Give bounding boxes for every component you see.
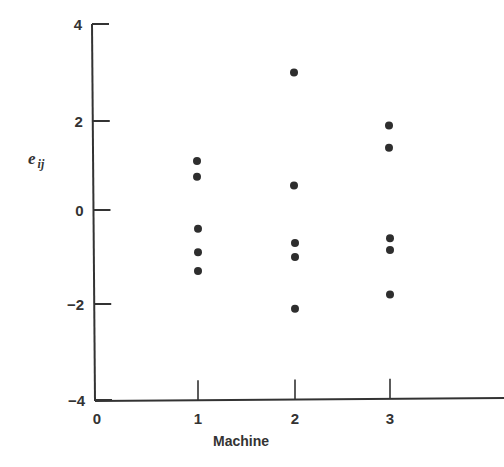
y-axis-line: [92, 24, 95, 401]
data-point: [386, 234, 394, 242]
y-axis-title: eij: [28, 149, 45, 171]
x-ticks: 0123: [93, 379, 394, 427]
y-tick-label: 2: [74, 113, 82, 130]
data-point: [194, 248, 202, 256]
y-tick-label: −2: [67, 296, 84, 313]
data-points: [193, 69, 394, 313]
data-point: [385, 121, 393, 129]
x-axis-title: Machine: [213, 433, 269, 449]
data-point: [385, 144, 393, 152]
data-point: [386, 246, 394, 254]
data-point: [290, 69, 298, 77]
x-tick-label: 2: [291, 410, 299, 427]
data-point: [291, 253, 299, 261]
y-ticks: 420−2−4: [67, 16, 112, 409]
data-point: [291, 305, 299, 313]
x-tick-label: 3: [386, 410, 394, 427]
data-point: [290, 182, 298, 190]
axes: [92, 24, 504, 401]
residual-scatter-chart: 420−2−4 0123 eij Machine: [0, 0, 504, 467]
y-tick-label: 4: [74, 16, 83, 33]
data-point: [193, 173, 201, 181]
x-tick-label: 1: [194, 410, 202, 427]
x-tick-label: 0: [93, 410, 101, 427]
data-point: [193, 157, 201, 165]
data-point: [194, 267, 202, 275]
y-tick-label: 0: [75, 202, 83, 219]
data-point: [194, 225, 202, 233]
data-point: [386, 291, 394, 299]
x-axis-line: [95, 398, 504, 401]
y-tick-label: −4: [68, 392, 86, 409]
data-point: [291, 239, 299, 247]
